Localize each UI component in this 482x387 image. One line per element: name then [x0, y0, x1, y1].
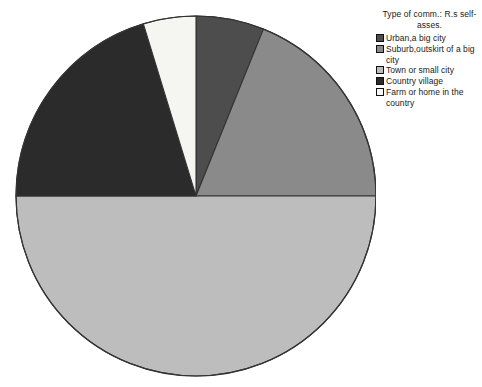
legend-item[interactable]: Farm or home in the country [376, 87, 482, 108]
pie-chart-area [0, 0, 376, 387]
legend-item[interactable]: Town or small city [376, 65, 482, 76]
legend-item[interactable]: Suburb,outskirt of a big city [376, 44, 482, 65]
pie-chart-svg [0, 0, 376, 387]
legend-swatch-icon [376, 66, 384, 74]
chart-page: Type of comm.: R.s self-asses. Urban,a b… [0, 0, 482, 387]
chart-legend: Type of comm.: R.s self-asses. Urban,a b… [376, 9, 482, 108]
pie-slice[interactable] [16, 196, 376, 376]
legend-title: Type of comm.: R.s self-asses. [376, 9, 482, 30]
legend-item-label: Farm or home in the country [386, 87, 463, 108]
legend-item-label: Town or small city [386, 65, 454, 76]
pie-slice-group [16, 16, 376, 376]
legend-item-label: Suburb,outskirt of a big city [386, 44, 482, 65]
legend-item-list: Urban,a big citySuburb,outskirt of a big… [376, 33, 482, 108]
legend-swatch-icon [376, 77, 384, 85]
legend-item[interactable]: Urban,a big city [376, 33, 482, 44]
legend-swatch-icon [376, 34, 384, 42]
legend-item[interactable]: Country village [376, 76, 482, 87]
legend-swatch-icon [376, 45, 384, 53]
legend-item-label: Country village [386, 76, 443, 87]
legend-swatch-icon [376, 88, 384, 96]
legend-item-label: Urban,a big city [386, 33, 446, 44]
